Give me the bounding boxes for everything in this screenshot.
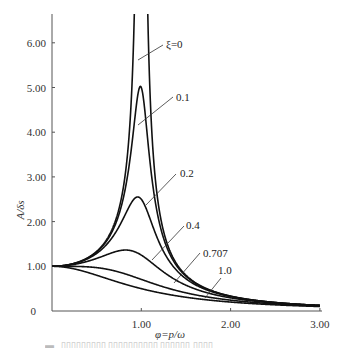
leader-line — [146, 174, 176, 205]
y-axis-title: A/δs — [14, 200, 26, 220]
curve-zeta-1.0 — [52, 266, 320, 306]
y-tick-label: 5.00 — [27, 82, 47, 94]
x-axis-title: φ=p/ω — [155, 328, 185, 340]
curve-label: 0.4 — [186, 219, 200, 231]
curve-label: ξ=0 — [166, 38, 183, 51]
x-tick-label: 2.00 — [221, 318, 241, 330]
curve-zeta-ξ=0 — [52, 0, 140, 266]
curve-label: 0.2 — [180, 167, 194, 179]
y-ticks: 01.002.003.004.005.006.00 — [27, 37, 55, 317]
curve-zeta-0.2 — [52, 197, 320, 306]
curve-zeta-0.707 — [52, 266, 320, 306]
y-tick-label: 3.00 — [27, 171, 47, 183]
x-tick-label: 3.00 — [310, 318, 330, 330]
leader-line — [138, 45, 163, 60]
curve-label: 1.0 — [218, 264, 232, 276]
curve-label-leaders: ξ=00.10.20.40.7071.0 — [138, 38, 232, 298]
response-curves — [52, 0, 320, 307]
curve-zeta-0.1 — [52, 86, 320, 305]
y-tick-label: 4.00 — [27, 126, 47, 138]
y-tick-label: 6.00 — [27, 37, 47, 49]
figure-caption-partial: ▬ ▯▯▯▯▯▯▯▯▯ ▯▯▯▯▯▯▯▯▯▯ ▯▯▯▯▯▯ ▯▯▯▯ — [45, 340, 305, 348]
leader-line — [152, 226, 184, 260]
y-tick-label: 1.00 — [27, 260, 47, 272]
y-tick-label: 0 — [31, 305, 37, 317]
y-tick-label: 2.00 — [27, 216, 47, 228]
curve-label: 0.707 — [203, 247, 228, 259]
curve-label: 0.1 — [176, 91, 190, 103]
x-tick-label: 1.00 — [132, 318, 152, 330]
amplitude-frequency-chart: 01.002.003.004.005.006.00 1.002.003.00 ξ… — [0, 0, 340, 348]
